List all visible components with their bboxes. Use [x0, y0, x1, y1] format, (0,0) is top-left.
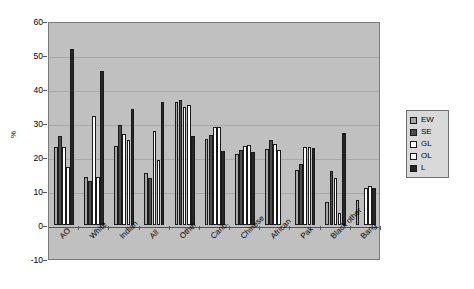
legend-swatch-icon — [410, 153, 417, 160]
legend-item: EW — [410, 114, 445, 126]
y-tick-mark — [43, 56, 47, 57]
bar-group — [140, 23, 170, 259]
bar-group — [290, 23, 320, 259]
legend-label: L — [421, 164, 425, 172]
bar-group — [49, 23, 79, 259]
y-tick-mark — [43, 90, 47, 91]
y-tick-mark — [43, 158, 47, 159]
legend-swatch-icon — [410, 117, 417, 124]
bar — [251, 152, 255, 225]
y-tick-label: -10 — [19, 256, 43, 264]
x-tick-mark — [380, 226, 381, 230]
y-tick-label: 40 — [19, 86, 43, 94]
legend-label: OL — [421, 152, 432, 160]
y-tick-label: 0 — [19, 222, 43, 230]
legend: EWSEGLOLL — [406, 110, 449, 178]
x-tick-mark — [350, 226, 351, 230]
bar — [70, 49, 74, 225]
bar — [161, 102, 165, 225]
bar-group — [351, 23, 381, 259]
y-tick-label: 30 — [19, 120, 43, 128]
legend-label: EW — [421, 116, 434, 124]
x-tick-mark — [320, 226, 321, 230]
y-tick-mark — [43, 260, 47, 261]
y-tick-mark — [43, 124, 47, 125]
bar — [277, 150, 281, 225]
legend-swatch-icon — [410, 141, 417, 148]
y-tick-label: 10 — [19, 188, 43, 196]
y-tick-mark — [43, 22, 47, 23]
y-tick-label: 60 — [19, 18, 43, 26]
legend-item: L — [410, 162, 445, 174]
legend-swatch-icon — [410, 129, 417, 136]
x-tick-mark — [289, 226, 290, 230]
y-tick-label: 50 — [19, 52, 43, 60]
bar — [131, 109, 135, 225]
legend-swatch-icon — [410, 165, 417, 172]
legend-label: GL — [421, 140, 432, 148]
bar — [342, 133, 346, 225]
y-tick-label: 20 — [19, 154, 43, 162]
x-tick-mark — [139, 226, 140, 230]
y-tick-mark — [43, 192, 47, 193]
legend-label: SE — [421, 128, 432, 136]
bar — [372, 188, 376, 225]
legend-item: OL — [410, 150, 445, 162]
y-axis-tick-labels: -100102030405060 — [17, 0, 43, 289]
bar — [312, 148, 316, 225]
legend-item: GL — [410, 138, 445, 150]
x-tick-mark — [259, 226, 260, 230]
x-tick-mark — [78, 226, 79, 230]
bar — [100, 71, 104, 225]
x-tick-mark — [169, 226, 170, 230]
bar — [221, 151, 225, 225]
x-tick-mark — [108, 226, 109, 230]
bar — [191, 136, 195, 225]
bar-chart: % -100102030405060 AOWhiteIndianAllOther… — [0, 0, 474, 289]
legend-item: SE — [410, 126, 445, 138]
y-tick-mark — [43, 226, 47, 227]
x-tick-mark — [199, 226, 200, 230]
